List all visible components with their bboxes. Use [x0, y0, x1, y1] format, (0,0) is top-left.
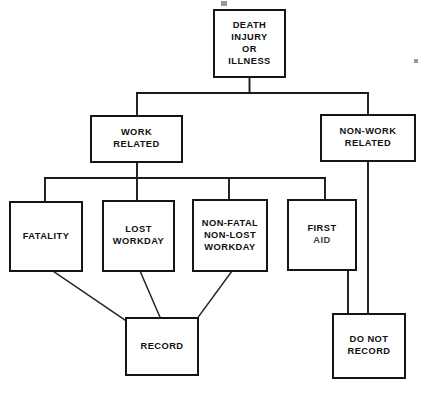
scan-speck-top: [221, 1, 227, 6]
node-label-fatality-line-0: FATALITY: [23, 231, 70, 241]
node-label-record-line-0: RECORD: [141, 341, 184, 351]
node-label-do-not-record-line-0: DO NOT: [350, 334, 389, 344]
node-label-work-related-line-1: RELATED: [113, 139, 159, 149]
node-death-injury-or-illness: DEATHINJURYORILLNESS: [214, 10, 285, 77]
node-label-death-injury-or-illness-line-2: OR: [242, 44, 257, 54]
node-do-not-record: DO NOTRECORD: [333, 314, 405, 378]
node-first-aid: FIRSTAID: [288, 200, 356, 270]
node-label-non-fatal-non-lost-workday-line-0: NON-FATAL: [202, 218, 258, 228]
node-label-lost-workday-line-0: LOST: [125, 224, 152, 234]
node-label-non-work-related-line-1: RELATED: [345, 138, 391, 148]
node-lost-workday: LOSTWORKDAY: [103, 201, 174, 271]
node-label-non-work-related-line-0: NON-WORK: [340, 126, 397, 136]
node-label-non-fatal-non-lost-workday-line-2: WORKDAY: [204, 242, 256, 252]
node-work-related: WORKRELATED: [91, 116, 182, 162]
node-record: RECORD: [126, 318, 198, 375]
node-label-first-aid-line-0: FIRST: [307, 223, 336, 233]
node-label-death-injury-or-illness-line-1: INJURY: [231, 32, 268, 42]
node-fatality: FATALITY: [10, 202, 82, 271]
node-label-first-aid-line-1: AID: [313, 235, 330, 245]
node-label-death-injury-or-illness-line-3: ILLNESS: [228, 56, 270, 66]
node-non-fatal-non-lost-workday: NON-FATALNON-LOSTWORKDAY: [193, 200, 267, 271]
node-label-lost-workday-line-1: WORKDAY: [113, 236, 165, 246]
node-label-do-not-record-line-1: RECORD: [348, 346, 391, 356]
flowchart-diagram: DEATHINJURYORILLNESSWORKRELATEDNON-WORKR…: [0, 0, 423, 396]
node-label-work-related-line-0: WORK: [121, 127, 152, 137]
scan-speck-right: [414, 59, 418, 63]
node-non-work-related: NON-WORKRELATED: [321, 115, 415, 161]
flowchart-canvas: DEATHINJURYORILLNESSWORKRELATEDNON-WORKR…: [0, 0, 423, 396]
node-label-death-injury-or-illness-line-0: DEATH: [233, 20, 267, 30]
node-label-non-fatal-non-lost-workday-line-1: NON-LOST: [204, 230, 256, 240]
